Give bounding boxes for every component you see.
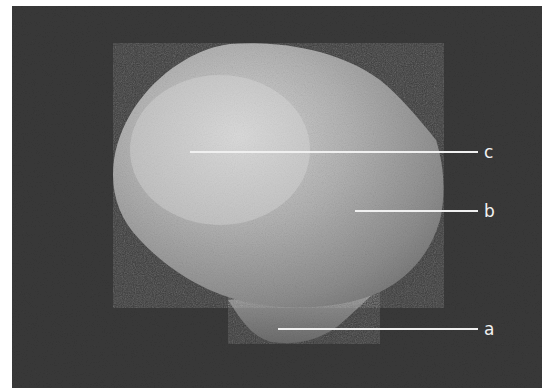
label-c: c <box>484 142 493 162</box>
label-a: a <box>484 319 494 339</box>
photo-canvas: c b a <box>12 6 542 388</box>
label-b: b <box>484 201 495 221</box>
specimen-photograph: c b a <box>12 6 542 388</box>
bone-highlight <box>130 75 310 225</box>
